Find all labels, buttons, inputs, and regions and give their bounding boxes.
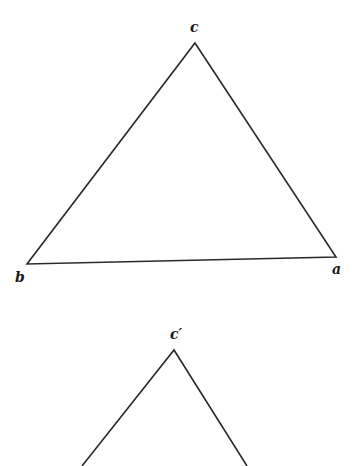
vertex-label-c: c — [190, 20, 199, 34]
triangle-prime-partial — [82, 350, 247, 466]
diagram-canvas — [0, 0, 352, 466]
geometry-figure: c b a c′ — [0, 0, 352, 466]
vertex-label-c-prime: c′ — [170, 327, 182, 341]
vertex-label-a: a — [332, 262, 341, 276]
vertex-label-b: b — [15, 270, 25, 284]
triangle-abc — [27, 43, 336, 264]
